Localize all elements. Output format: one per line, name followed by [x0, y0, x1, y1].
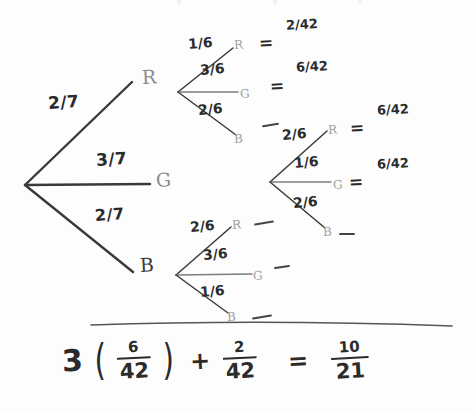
- leaf-B-R: R: [232, 219, 242, 231]
- result-R-R: 2/42: [286, 17, 317, 32]
- prob-B-R: 2/6: [189, 218, 215, 234]
- node-B: B: [140, 255, 155, 275]
- prob-G-B: 2/6: [292, 194, 318, 210]
- prob-R-R: 1/6: [187, 35, 213, 51]
- equation-term2-numerator: 2: [222, 339, 257, 357]
- leaf-G-G: G: [333, 179, 343, 191]
- prob-root-G: 3/7: [95, 150, 127, 169]
- result-G-R-numerator: 6/42: [377, 102, 410, 117]
- equals-G-R: =: [350, 119, 365, 137]
- prob-root-B: 2/7: [94, 206, 125, 224]
- result-G-G: 6/42: [377, 156, 410, 171]
- equation-term1-fraction: 6 42: [116, 339, 152, 383]
- result-G-G-numerator: 6/42: [377, 156, 410, 171]
- edge-B-to-G: [176, 274, 252, 275]
- equation-coefficient: 3: [61, 346, 83, 377]
- leaf-R-G: G: [240, 88, 250, 100]
- final-equation: 3 ( 6 42 ) + 2 42 = 10 21: [62, 340, 369, 382]
- result-R-R-numerator: 2/42: [286, 17, 317, 32]
- equation-answer-fraction: 10 21: [330, 339, 370, 383]
- prob-G-G: 1/6: [293, 154, 319, 170]
- prob-G-R: 2/6: [281, 126, 307, 142]
- prob-B-G: 3/6: [202, 246, 228, 262]
- prob-root-R: 2/7: [47, 93, 79, 112]
- edge-root-to-G: [25, 184, 150, 185]
- close-paren-icon: ): [163, 340, 174, 382]
- leaf-R-B: B: [234, 133, 243, 145]
- equals-R-G: =: [270, 77, 285, 95]
- node-R: R: [142, 67, 157, 87]
- equation-term2-denominator: 42: [223, 359, 258, 383]
- leaf-B-G: G: [253, 270, 263, 282]
- equation-answer-denominator: 21: [331, 359, 370, 383]
- leaf-R-R: R: [234, 39, 244, 51]
- leaf-G-R: R: [328, 124, 338, 136]
- equation-plus-sign: +: [189, 349, 210, 374]
- result-G-R: 6/42: [377, 102, 410, 117]
- result-R-G-numerator: 6/42: [296, 59, 329, 74]
- equals-R-R: =: [259, 34, 274, 52]
- equation-answer-numerator: 10: [330, 339, 369, 357]
- prob-B-B: 1/6: [199, 283, 225, 299]
- handwritten-worksheet: ◦ ◦ ◦ 2/7 3/7 2/7 R G B: [0, 0, 473, 413]
- equation-equals-sign: =: [287, 349, 308, 374]
- equation-term2-fraction: 2 42: [222, 339, 258, 383]
- leaf-B-B: B: [227, 311, 236, 323]
- open-paren-icon: (: [94, 340, 105, 382]
- result-R-G: 6/42: [296, 59, 329, 74]
- node-G: G: [156, 170, 172, 190]
- prob-R-G: 3/6: [199, 61, 225, 77]
- dash-G-B: [339, 233, 355, 235]
- equation-term1-denominator: 42: [117, 359, 152, 383]
- leaf-G-B: B: [323, 226, 332, 238]
- equals-G-G: =: [349, 173, 364, 191]
- equation-term1-numerator: 6: [116, 339, 151, 357]
- prob-R-B: 2/6: [197, 101, 223, 117]
- edge-root-to-B: [25, 185, 133, 272]
- horizontal-rule: [91, 322, 452, 326]
